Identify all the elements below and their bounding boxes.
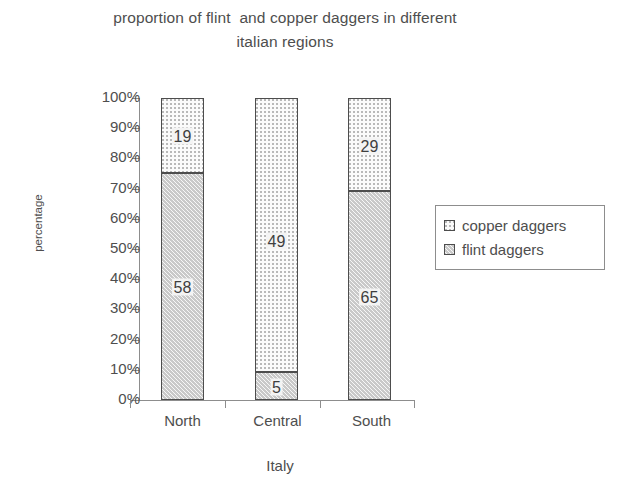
bar-segment-flint-central[interactable]: 5 [255,372,298,400]
x-axis-label-south: South [324,412,419,429]
y-tick-label: 50% [78,239,140,256]
x-axis-title: Italy [180,457,380,474]
x-tick-mark [225,400,226,408]
x-tick-mark [414,400,415,408]
legend-label-flint: flint daggers [462,241,544,258]
bar-value-label: 5 [270,379,283,396]
y-tick-label: 20% [78,330,140,347]
y-tick-label: 40% [78,269,140,286]
legend-item-copper-daggers[interactable]: copper daggers [444,213,596,237]
y-tick-label: 80% [78,148,140,165]
x-tick-mark [130,400,131,408]
x-axis-label-central: Central [230,412,325,429]
y-tick-label: 60% [78,209,140,226]
x-axis-line [130,400,415,401]
y-tick-label: 100% [78,88,140,105]
legend: copper daggers flint daggers [435,205,605,270]
x-tick-mark [320,400,321,408]
bar-segment-copper-south[interactable]: 29 [348,98,391,191]
bar-segment-copper-north[interactable]: 19 [161,98,204,173]
y-axis-title: percentage [32,173,44,273]
bar-value-label: 65 [359,288,381,305]
bar-segment-flint-north[interactable]: 58 [161,173,204,400]
x-axis-label-north: North [135,412,230,429]
y-tick-label: 70% [78,179,140,196]
bar-segment-copper-central[interactable]: 49 [255,98,298,372]
bar-segment-flint-south[interactable]: 65 [348,191,391,400]
bar-value-label: 19 [172,128,194,145]
legend-swatch-flint-icon [444,244,455,255]
y-tick-label: 90% [78,118,140,135]
legend-swatch-copper-icon [444,220,455,231]
legend-label-copper: copper daggers [462,217,566,234]
legend-item-flint-daggers[interactable]: flint daggers [444,237,596,261]
bar-value-label: 58 [172,279,194,296]
bar-value-label: 29 [359,137,381,154]
y-tick-label: 30% [78,299,140,316]
bar-value-label: 49 [266,233,288,250]
plot-area: 100%90%80%70%60%50%40%30%20%10%0% North … [0,0,629,493]
y-tick-label: 10% [78,360,140,377]
